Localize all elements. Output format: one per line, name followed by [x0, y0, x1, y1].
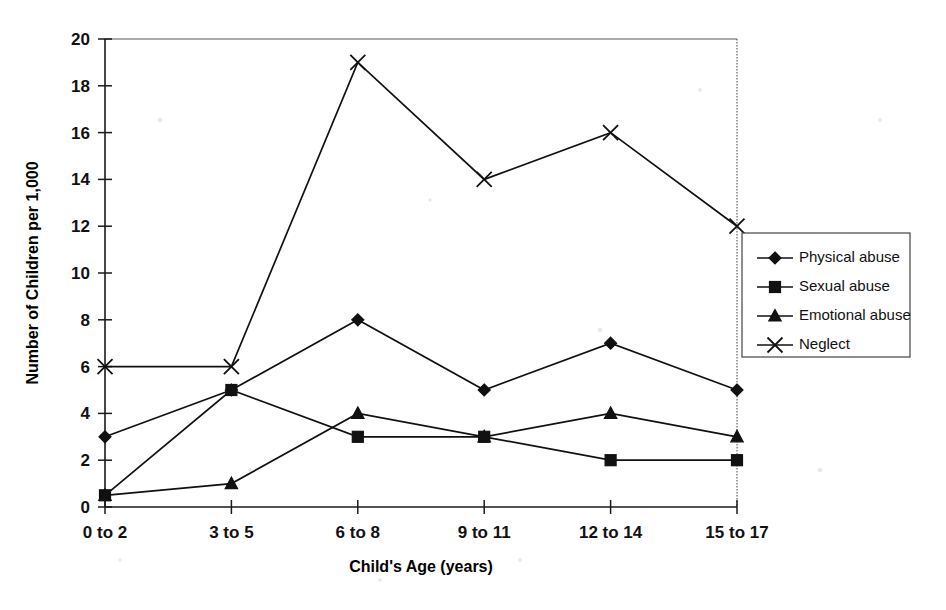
line-chart: 0 2 4 6 8 10 12 14 16 18 20 Number of Ch…: [0, 0, 946, 610]
legend-label: Sexual abuse: [799, 277, 890, 294]
x-axis-tick-labels: 0 to 2 3 to 5 6 to 8 9 to 11 12 to 14 15…: [83, 523, 769, 542]
y-tick-label: 12: [71, 217, 90, 236]
y-tick-label: 10: [71, 264, 90, 283]
series-physical-abuse: [99, 314, 743, 443]
series-sexual-abuse: [100, 385, 743, 501]
y-tick-label: 16: [71, 124, 90, 143]
x-tick-label: 3 to 5: [209, 523, 253, 542]
legend-label: Emotional abuse: [799, 306, 911, 323]
x-tick-label: 6 to 8: [336, 523, 380, 542]
x-axis-title: Child's Age (years): [349, 558, 493, 575]
y-axis-title: Number of Children per 1,000: [24, 161, 41, 384]
data-point: [731, 384, 743, 396]
data-point: [226, 385, 237, 396]
x-tick-label: 9 to 11: [458, 523, 511, 542]
data-point: [350, 55, 365, 70]
data-point: [603, 125, 618, 140]
data-point: [352, 407, 364, 419]
y-tick-label: 2: [81, 451, 90, 470]
x-tick-label: 15 to 17: [705, 523, 768, 542]
chart-container: 0 2 4 6 8 10 12 14 16 18 20 Number of Ch…: [0, 0, 946, 610]
y-tick-label: 4: [81, 404, 91, 423]
legend-label: Neglect: [799, 335, 851, 352]
y-tick-label: 14: [71, 170, 90, 189]
data-point: [732, 455, 743, 466]
x-axis: 0 to 2 3 to 5 6 to 8 9 to 11 12 to 14 15…: [83, 500, 769, 575]
data-point: [352, 314, 364, 326]
series-line: [105, 413, 737, 495]
legend-label: Physical abuse: [799, 248, 900, 265]
y-tick-label: 8: [81, 311, 90, 330]
y-axis: 0 2 4 6 8 10 12 14 16 18 20 Number of Ch…: [24, 30, 112, 517]
data-point: [605, 455, 616, 466]
x-tick-label: 12 to 14: [579, 523, 643, 542]
x-tick-label: 0 to 2: [83, 523, 127, 542]
legend: Physical abuseSexual abuseEmotional abus…: [742, 233, 911, 357]
data-point: [477, 172, 492, 187]
data-point: [352, 431, 363, 442]
series-layer: [98, 55, 745, 501]
y-tick-label: 20: [71, 30, 90, 49]
y-tick-label: 0: [81, 498, 90, 517]
y-tick-label: 6: [81, 358, 90, 377]
data-point: [478, 384, 490, 396]
series-line: [105, 62, 737, 366]
data-point: [605, 337, 617, 349]
y-axis-tick-labels: 0 2 4 6 8 10 12 14 16 18 20: [71, 30, 90, 517]
series-line: [105, 390, 737, 495]
data-point: [99, 431, 111, 443]
y-tick-label: 18: [71, 77, 90, 96]
series-neglect: [98, 55, 745, 374]
data-point: [604, 407, 616, 419]
legend-marker-square-icon: [770, 282, 781, 293]
data-point: [225, 477, 237, 489]
